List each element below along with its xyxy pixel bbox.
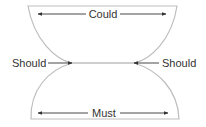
must-label: Must bbox=[92, 107, 116, 119]
should-left-label: Should bbox=[12, 57, 46, 69]
should-right-label: Should bbox=[162, 57, 196, 69]
moscow-hourglass-diagram: Could Should Should Must bbox=[0, 0, 206, 127]
could-label: Could bbox=[89, 8, 118, 20]
